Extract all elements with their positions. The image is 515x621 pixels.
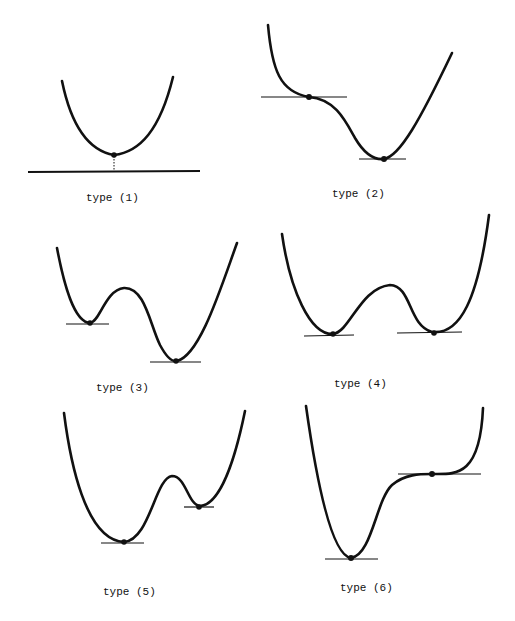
local-minimum-point <box>196 504 202 510</box>
panel-type-6 <box>306 406 483 561</box>
panel-type-3 <box>57 243 237 364</box>
panel-type-2 <box>261 25 452 162</box>
panel-label-type-4: type (4) <box>334 378 387 390</box>
local-minimum-point <box>87 320 93 326</box>
potential-curve <box>57 243 237 361</box>
potential-curve <box>306 406 483 558</box>
panel-label-type-3: type (3) <box>96 382 149 394</box>
potential-curve <box>268 25 452 159</box>
panel-label-type-2: type (2) <box>332 188 385 200</box>
left-minimum-point <box>330 331 336 337</box>
panel-label-type-5: type (5) <box>103 586 156 598</box>
global-minimum-point <box>348 555 354 561</box>
right-minimum-point <box>431 330 437 336</box>
right-minimum-tangent-line <box>397 332 462 333</box>
inflection-point <box>429 471 435 477</box>
diagram-canvas <box>0 0 515 621</box>
panel-label-type-1: type (1) <box>86 192 139 204</box>
potential-curve <box>62 77 173 155</box>
panel-type-4 <box>282 215 489 337</box>
global-minimum-point <box>121 539 127 545</box>
minimum-point <box>381 156 387 162</box>
inflection-point <box>306 94 312 100</box>
global-minimum-point <box>173 358 179 364</box>
left-minimum-tangent-line <box>304 335 354 336</box>
panel-type-1 <box>28 77 200 172</box>
potential-curve <box>282 215 489 334</box>
panel-type-5 <box>64 411 245 545</box>
minimum-point <box>111 152 117 158</box>
potential-curve <box>64 411 245 542</box>
panel-label-type-6: type (6) <box>340 582 393 594</box>
